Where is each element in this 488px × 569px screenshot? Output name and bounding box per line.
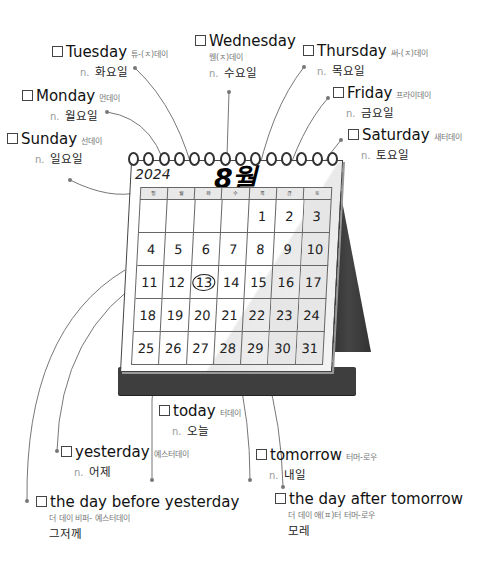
day-cell: 8 bbox=[246, 233, 275, 266]
vocab-word: Friday bbox=[347, 84, 392, 102]
vocab-friday: Friday프라이데이 n.금요일 bbox=[333, 84, 431, 120]
vocab-pronunciation: 웬(ㅈ)데이 bbox=[209, 51, 296, 62]
vocab-pronunciation: 튜-(ㅈ)데이 bbox=[131, 48, 168, 59]
day-cell: 26 bbox=[159, 332, 188, 365]
checkbox-icon bbox=[256, 449, 267, 460]
day-cell: 12 bbox=[163, 266, 192, 299]
vocab-pronunciation: 더 데이 비퍼- 예스터데이 bbox=[49, 512, 239, 523]
part-of-speech: n. bbox=[361, 150, 371, 161]
vocab-sunday: Sunday선데이 n.일요일 bbox=[7, 130, 102, 166]
day-cell: 22 bbox=[243, 299, 272, 332]
checkbox-icon bbox=[195, 35, 206, 46]
day-cell bbox=[166, 200, 195, 233]
day-cell: 19 bbox=[161, 299, 190, 332]
vocab-meaning: 모레 bbox=[288, 522, 463, 538]
day-cell: 29 bbox=[241, 332, 270, 365]
checkbox-icon bbox=[348, 129, 359, 140]
day-cell: 21 bbox=[216, 299, 245, 332]
vocab-pronunciation: 먼데이 bbox=[99, 92, 120, 103]
part-of-speech: n. bbox=[80, 67, 90, 78]
checkbox-icon bbox=[52, 46, 63, 57]
part-of-speech: n. bbox=[209, 68, 219, 79]
vocab-pronunciation: 더 데이 애(ㅍ)터 터머-로우 bbox=[288, 509, 463, 520]
vocab-word: Thursday bbox=[317, 42, 387, 60]
weekday-header: 일 bbox=[141, 188, 169, 199]
part-of-speech: n. bbox=[269, 470, 279, 481]
vocab-thursday: Thursday써-(ㅈ)데이 n.목요일 bbox=[303, 42, 428, 78]
vocab-word: Monday bbox=[36, 87, 95, 105]
vocab-tomorrow: tomorrow터머-로우 n.내일 bbox=[256, 446, 377, 482]
day-cell: 5 bbox=[164, 233, 193, 266]
day-cell: 3 bbox=[303, 200, 332, 233]
vocab-pronunciation: 프라이데이 bbox=[396, 89, 431, 100]
vocab-today: today터데이 n.오늘 bbox=[159, 402, 241, 438]
weekday-header: 화 bbox=[195, 188, 223, 199]
part-of-speech: n. bbox=[35, 154, 45, 165]
vocab-meaning: 금요일 bbox=[361, 106, 394, 120]
day-cell bbox=[221, 200, 250, 233]
vocab-day-after-tomorrow: the day after tomorrow 더 데이 애(ㅍ)터 터머-로우 … bbox=[275, 490, 463, 538]
vocab-monday: Monday먼데이 n.월요일 bbox=[22, 87, 120, 123]
vocab-word: yesterday bbox=[75, 443, 150, 461]
vocab-tuesday: Tuesday튜-(ㅈ)데이 n.화요일 bbox=[52, 43, 168, 79]
part-of-speech: n. bbox=[172, 426, 182, 437]
vocab-word: the day before yesterday bbox=[50, 493, 239, 511]
day-cell: 24 bbox=[297, 299, 326, 332]
day-cell: 4 bbox=[137, 233, 166, 266]
vocab-yesterday: yesterday예스터데이 n.어제 bbox=[61, 443, 189, 479]
checkbox-icon bbox=[333, 87, 344, 98]
vocab-pronunciation: 예스터데이 bbox=[154, 448, 189, 459]
checkbox-icon bbox=[61, 446, 72, 457]
day-cell-today: 13 bbox=[190, 266, 219, 299]
checkbox-icon bbox=[159, 405, 170, 416]
checkbox-icon bbox=[22, 90, 33, 101]
part-of-speech: n. bbox=[317, 66, 327, 77]
checkbox-icon bbox=[275, 493, 286, 504]
day-cell: 25 bbox=[132, 332, 161, 365]
day-cell: 20 bbox=[188, 299, 217, 332]
weekday-header: 금 bbox=[276, 188, 304, 199]
day-cell: 18 bbox=[134, 299, 163, 332]
day-cell: 17 bbox=[299, 266, 328, 299]
weekday-header: 토 bbox=[304, 188, 332, 199]
checkbox-icon bbox=[303, 45, 314, 56]
vocab-meaning: 일요일 bbox=[50, 152, 83, 166]
vocab-pronunciation: 써-(ㅈ)데이 bbox=[391, 47, 428, 58]
vocab-wednesday: Wednesday 웬(ㅈ)데이 n.수요일 bbox=[195, 32, 296, 80]
vocab-word: the day after tomorrow bbox=[289, 490, 463, 508]
weekday-header-row: 일 월 화 수 목 금 토 bbox=[140, 187, 333, 200]
vocab-meaning: 내일 bbox=[284, 468, 306, 482]
vocab-word: tomorrow bbox=[270, 446, 342, 464]
day-cell: 28 bbox=[214, 332, 243, 365]
vocab-meaning: 오늘 bbox=[187, 424, 209, 438]
checkbox-icon bbox=[36, 496, 47, 507]
vocab-word: Tuesday bbox=[66, 43, 127, 61]
vocab-meaning: 어제 bbox=[89, 465, 111, 479]
day-cell: 31 bbox=[296, 332, 325, 365]
checkbox-icon bbox=[7, 133, 18, 144]
vocab-meaning: 그저께 bbox=[49, 525, 239, 541]
calendar-grid: 일 월 화 수 목 금 토 1 2 3 4 5 6 7 8 9 10 11 12… bbox=[131, 187, 332, 365]
calendar-year: 2024 bbox=[135, 166, 171, 182]
day-cell: 14 bbox=[217, 266, 246, 299]
weekday-header: 월 bbox=[168, 188, 196, 199]
vocab-word: today bbox=[173, 402, 216, 420]
vocab-day-before-yesterday: the day before yesterday 더 데이 비퍼- 예스터데이 … bbox=[36, 493, 239, 541]
day-cell: 9 bbox=[274, 233, 303, 266]
day-cell: 15 bbox=[245, 266, 274, 299]
vocab-saturday: Saturday새터데이 n.토요일 bbox=[348, 126, 462, 162]
day-cell: 11 bbox=[135, 266, 164, 299]
part-of-speech: n. bbox=[50, 111, 60, 122]
day-cell: 10 bbox=[301, 233, 330, 266]
vocab-meaning: 수요일 bbox=[224, 66, 257, 80]
day-cell: 2 bbox=[275, 200, 304, 233]
calendar-cells: 1 2 3 4 5 6 7 8 9 10 11 12 13 14 15 16 1… bbox=[131, 200, 332, 365]
day-cell: 1 bbox=[248, 200, 277, 233]
vocab-pronunciation: 선데이 bbox=[81, 135, 102, 146]
weekday-header: 목 bbox=[249, 188, 277, 199]
day-cell: 6 bbox=[192, 233, 221, 266]
vocab-pronunciation: 새터데이 bbox=[434, 131, 462, 142]
day-cell bbox=[193, 200, 222, 233]
part-of-speech: n. bbox=[346, 108, 356, 119]
vocab-word: Saturday bbox=[362, 126, 430, 144]
